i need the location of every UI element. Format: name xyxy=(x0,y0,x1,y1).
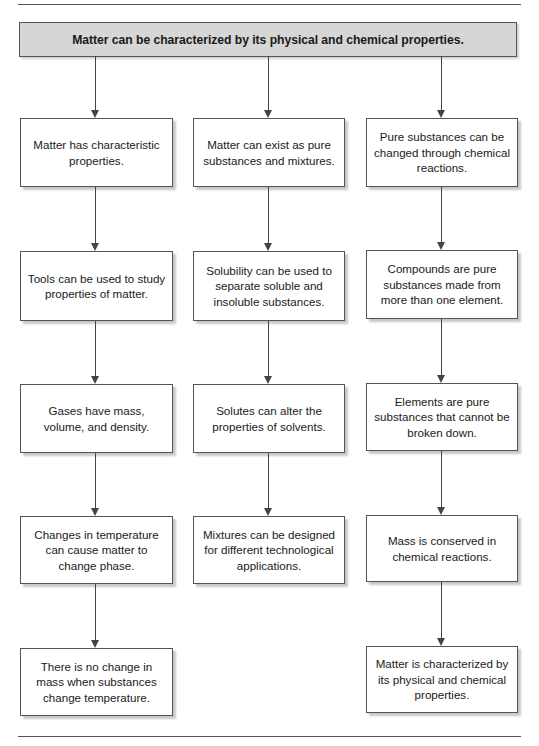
connector-col1-0 xyxy=(95,56,96,111)
node-col3-5: Matter is characterized by its physical … xyxy=(366,646,518,713)
node-label: Elements are pure substances that cannot… xyxy=(373,394,511,441)
node-label: Matter has characteristic properties. xyxy=(27,137,166,168)
connector-col3-2 xyxy=(441,319,442,376)
arrowhead-icon xyxy=(91,508,99,516)
node-col2-2: Solubility can be used to separate solub… xyxy=(193,251,345,321)
node-label: Tools can be used to study properties of… xyxy=(27,271,166,302)
node-col3-1: Pure substances can be changed through c… xyxy=(366,118,518,187)
node-label: Gases have mass, volume, and density. xyxy=(27,403,166,434)
node-col1-3: Gases have mass, volume, and density. xyxy=(20,384,173,453)
connector-col1-1 xyxy=(95,187,96,244)
arrowhead-icon xyxy=(264,110,272,118)
node-col2-1: Matter can exist as pure substances and … xyxy=(193,118,345,187)
node-col2-3: Solutes can alter the properties of solv… xyxy=(193,384,345,453)
arrowhead-icon xyxy=(264,243,272,251)
connector-col2-1 xyxy=(268,187,269,244)
node-col2-4: Mixtures can be designed for different t… xyxy=(193,516,345,584)
node-label: Mixtures can be designed for different t… xyxy=(200,527,338,574)
arrowhead-icon xyxy=(264,508,272,516)
arrowhead-icon xyxy=(91,243,99,251)
connector-col3-4 xyxy=(441,582,442,639)
connector-col3-0 xyxy=(441,56,442,111)
root-node-label: Matter can be characterized by its physi… xyxy=(72,33,464,47)
connector-col2-0 xyxy=(268,56,269,111)
node-col3-3: Elements are pure substances that cannot… xyxy=(366,383,518,451)
arrowhead-icon xyxy=(437,375,445,383)
connector-col2-3 xyxy=(268,453,269,509)
connector-col1-3 xyxy=(95,453,96,509)
arrowhead-icon xyxy=(437,110,445,118)
node-label: Solutes can alter the properties of solv… xyxy=(200,403,338,434)
node-col1-5: There is no change in mass when substanc… xyxy=(20,648,173,716)
node-col3-4: Mass is conserved in chemical reactions. xyxy=(366,515,518,582)
node-label: Compounds are pure substances made from … xyxy=(373,261,511,308)
connector-col1-2 xyxy=(95,321,96,377)
node-col1-2: Tools can be used to study properties of… xyxy=(20,251,173,321)
connector-col1-4 xyxy=(95,584,96,641)
arrowhead-icon xyxy=(437,507,445,515)
arrowhead-icon xyxy=(437,638,445,646)
bottom-rule xyxy=(18,736,521,737)
node-label: Matter can exist as pure substances and … xyxy=(200,137,338,168)
node-label: Matter is characterized by its physical … xyxy=(373,656,511,703)
node-label: Pure substances can be changed through c… xyxy=(373,129,511,176)
connector-col2-2 xyxy=(268,321,269,377)
node-label: There is no change in mass when substanc… xyxy=(27,659,166,706)
top-rule xyxy=(18,4,521,5)
node-label: Mass is conserved in chemical reactions. xyxy=(373,533,511,564)
node-col3-2: Compounds are pure substances made from … xyxy=(366,250,518,319)
node-col1-1: Matter has characteristic properties. xyxy=(20,118,173,187)
arrowhead-icon xyxy=(91,110,99,118)
node-label: Solubility can be used to separate solub… xyxy=(200,263,338,310)
connector-col3-3 xyxy=(441,451,442,508)
arrowhead-icon xyxy=(91,376,99,384)
connector-col3-1 xyxy=(441,187,442,243)
node-label: Changes in temperature can cause matter … xyxy=(27,527,166,574)
node-col1-4: Changes in temperature can cause matter … xyxy=(20,516,173,584)
arrowhead-icon xyxy=(91,640,99,648)
root-node: Matter can be characterized by its physi… xyxy=(19,22,517,57)
arrowhead-icon xyxy=(264,376,272,384)
arrowhead-icon xyxy=(437,242,445,250)
